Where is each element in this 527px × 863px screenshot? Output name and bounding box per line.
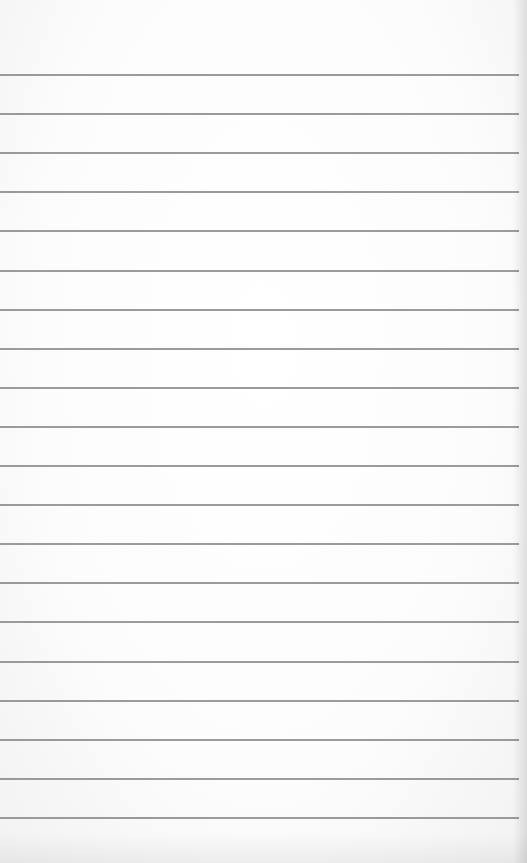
ruled-line <box>0 152 519 154</box>
ruled-line <box>0 621 519 623</box>
ruled-line <box>0 465 519 467</box>
ruled-line <box>0 739 519 741</box>
ruled-line <box>0 387 519 389</box>
ruled-line <box>0 270 519 272</box>
ruled-line <box>0 700 519 702</box>
ruled-line <box>0 309 519 311</box>
ruled-line <box>0 582 519 584</box>
ruled-line <box>0 426 519 428</box>
ruled-line <box>0 113 519 115</box>
ruled-line <box>0 74 519 76</box>
ruled-line <box>0 778 519 780</box>
ruled-line <box>0 817 519 819</box>
ruled-line <box>0 191 519 193</box>
ruled-line <box>0 504 519 506</box>
ruled-line <box>0 230 519 232</box>
ruled-line <box>0 661 519 663</box>
ruled-line <box>0 543 519 545</box>
ruled-line <box>0 348 519 350</box>
lined-paper <box>0 0 527 863</box>
